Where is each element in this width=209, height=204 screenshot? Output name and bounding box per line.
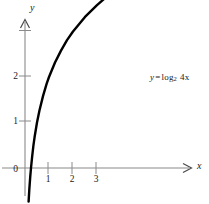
x-tick-label-2: 2: [65, 174, 79, 184]
y-tick-label-1: 1: [4, 116, 18, 126]
equation-function: log: [161, 72, 173, 82]
origin-tick-label: 0: [4, 164, 18, 174]
equation-argument: 4x: [177, 72, 189, 82]
log-curve: [29, 0, 203, 202]
y-tick-label-2: 2: [4, 71, 18, 81]
curve-equation-label: y=log24x: [150, 72, 189, 82]
x-tick-label-1: 1: [41, 174, 55, 184]
plot-canvas: [0, 0, 209, 204]
logarithm-graph-figure: y x 0 1 2 3 1 2 y=log24x: [0, 0, 209, 204]
x-tick-label-3: 3: [89, 174, 103, 184]
x-axis-label: x: [197, 160, 201, 171]
y-axis-label: y: [30, 2, 34, 13]
